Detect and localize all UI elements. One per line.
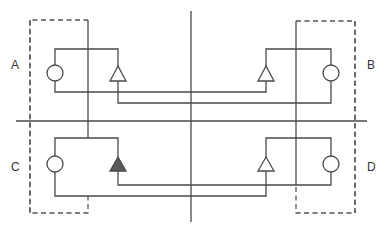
circle-icon-c: [47, 156, 63, 172]
dashed-boundary-b: [296, 21, 355, 213]
circle-icon-a: [47, 65, 63, 81]
circuit-diagram: A B C D: [0, 0, 387, 231]
label-a: A: [11, 58, 19, 72]
stem-wire-d: [191, 171, 266, 196]
circle-icon-d: [323, 156, 339, 172]
inner-top-wire-d: [266, 138, 331, 157]
triangle-icon-a: [110, 66, 126, 81]
dashed-boundary-d: [296, 21, 355, 213]
label-c: C: [11, 160, 20, 174]
inner-top-wire-a: [55, 49, 118, 66]
triangle-icon-b: [258, 66, 274, 81]
bottom-wire-d: [191, 172, 331, 185]
bottom-wire-a: [55, 81, 191, 92]
quadrant-a: [30, 20, 191, 213]
bottom-wire-c: [55, 172, 191, 196]
inner-top-wire-c: [55, 138, 118, 157]
stem-wire-b: [191, 81, 266, 92]
inner-top-wire-b: [266, 49, 331, 66]
filled-triangle-icon-c: [110, 157, 126, 171]
label-d: D: [367, 160, 376, 174]
stem-wire-c: [118, 171, 191, 185]
circle-icon-b: [323, 65, 339, 81]
label-b: B: [367, 58, 375, 72]
triangle-icon-d: [258, 157, 274, 171]
